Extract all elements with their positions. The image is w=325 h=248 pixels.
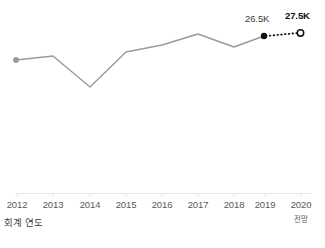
x-tick-label-2018: 2018 — [224, 199, 245, 210]
x-tick-label-2019: 2019 — [255, 199, 276, 210]
x-tick-label-2013: 2013 — [43, 199, 64, 210]
x-tick-label-2012: 2012 — [7, 199, 28, 210]
marker-2012 — [13, 57, 19, 63]
x-tick-label-2014: 2014 — [80, 199, 101, 210]
x-tick-label-2020: 2020 — [291, 199, 312, 210]
x-axis-caption: 회계 연도 — [4, 217, 43, 229]
x-tick-label-2015: 2015 — [116, 199, 137, 210]
x-tick-label-2017: 2017 — [188, 199, 209, 210]
x-tick-label-2016: 2016 — [152, 199, 173, 210]
marker-2019 — [261, 33, 267, 39]
value-label-2019: 26.5K — [245, 13, 269, 24]
forecast-note-label: 전망 — [294, 214, 308, 226]
marker-2020-forecast — [297, 30, 303, 36]
forecast-series-line — [266, 33, 298, 36]
line-chart: 26.5K 27.5K 2012 2013 2014 2015 2016 201… — [0, 0, 325, 248]
actual-series-line — [16, 34, 264, 87]
value-label-2020-forecast: 27.5K — [285, 10, 310, 21]
chart-plot-area — [0, 0, 325, 248]
